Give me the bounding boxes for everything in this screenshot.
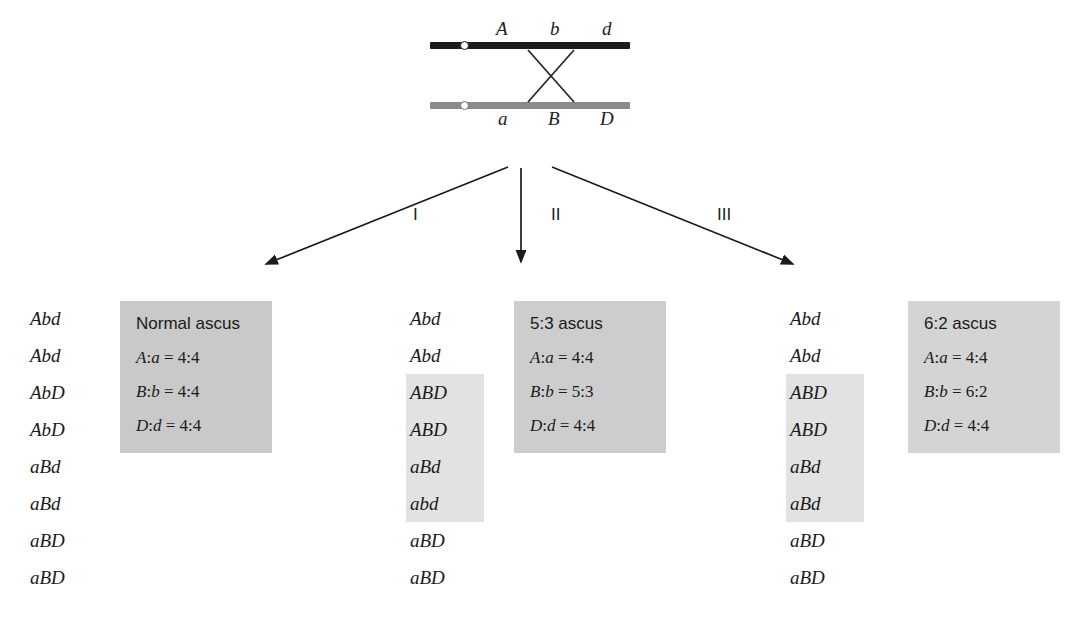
ratio-gene-lower: a	[939, 348, 948, 367]
genotype-row: aBd	[406, 448, 484, 485]
ratio-gene-lower: b	[151, 382, 160, 401]
genotype-row: aBD	[406, 559, 484, 596]
ratio-gene-upper: B	[924, 382, 934, 401]
ratio-gene-upper: D	[136, 416, 148, 435]
chromosome-crossover-diagram: A b d a B D	[430, 18, 640, 133]
genotype-column-1: AbdAbdAbDAbDaBdaBdaBDaBD	[26, 300, 104, 596]
ascus-ratio-line: D:d = 4:4	[530, 416, 666, 436]
ascus-summary-box-2: 5:3 ascusA:a = 4:4B:b = 5:3D:d = 4:4	[514, 301, 666, 453]
ratio-gene-upper: B	[136, 382, 146, 401]
ratio-gene-lower: d	[547, 416, 556, 435]
ascus-ratio-line: D:d = 4:4	[136, 416, 272, 436]
genotype-row: ABD	[406, 374, 484, 411]
ratio-value: 4:4	[180, 416, 202, 435]
genotype-row: Abd	[786, 337, 864, 374]
ratio-gene-upper: B	[530, 382, 540, 401]
arrow-label-ii: II	[551, 205, 560, 225]
bottom-centromere-icon	[460, 101, 469, 110]
ascus-title: 6:2 ascus	[924, 314, 1060, 334]
allele-label-D: D	[600, 108, 614, 130]
genotype-row: Abd	[406, 337, 484, 374]
arrow-iii	[552, 167, 793, 264]
allele-label-d: d	[602, 18, 612, 40]
ascus-ratio-line: D:d = 4:4	[924, 416, 1060, 436]
arrow-label-i: I	[413, 205, 418, 225]
ascus-summary-box-3: 6:2 ascusA:a = 4:4B:b = 6:2D:d = 4:4	[908, 301, 1060, 453]
genotype-row: AbD	[26, 411, 104, 448]
genotype-row: abd	[406, 485, 484, 522]
genotype-row: Abd	[26, 337, 104, 374]
allele-label-A: A	[496, 18, 508, 40]
ratio-value: 4:4	[574, 416, 596, 435]
genotype-row: ABD	[406, 411, 484, 448]
ascus-ratio-line: A:a = 4:4	[530, 348, 666, 368]
allele-label-b: b	[550, 18, 560, 40]
ratio-value: 4:4	[966, 348, 988, 367]
crossover-x-icon	[522, 48, 582, 104]
ratio-gene-lower: d	[941, 416, 950, 435]
ratio-value: 6:2	[966, 382, 988, 401]
genotype-row: aBd	[786, 448, 864, 485]
ratio-gene-upper: D	[530, 416, 542, 435]
genotype-row: aBD	[26, 522, 104, 559]
genotype-row: aBD	[26, 559, 104, 596]
genotype-row: aBd	[26, 485, 104, 522]
ratio-gene-upper: A	[136, 348, 146, 367]
ratio-gene-lower: a	[545, 348, 554, 367]
genotype-column-3: AbdAbdABDABDaBdaBdaBDaBD	[786, 300, 864, 596]
ratio-value: 4:4	[968, 416, 990, 435]
ascus-title: 5:3 ascus	[530, 314, 666, 334]
ascus-ratio-line: B:b = 5:3	[530, 382, 666, 402]
genotype-row: Abd	[406, 300, 484, 337]
arrow-i	[266, 167, 508, 264]
genotype-row: aBD	[406, 522, 484, 559]
ascus-ratio-line: A:a = 4:4	[924, 348, 1060, 368]
ratio-gene-upper: A	[530, 348, 540, 367]
genotype-row: aBd	[786, 485, 864, 522]
ratio-gene-lower: d	[153, 416, 162, 435]
ratio-gene-lower: b	[939, 382, 948, 401]
genotype-row: Abd	[26, 300, 104, 337]
allele-label-B: B	[548, 108, 560, 130]
ratio-gene-upper: D	[924, 416, 936, 435]
genotype-row: aBD	[786, 559, 864, 596]
genotype-row: aBd	[26, 448, 104, 485]
genotype-row: aBD	[786, 522, 864, 559]
genotype-row: Abd	[786, 300, 864, 337]
ascus-ratio-line: A:a = 4:4	[136, 348, 272, 368]
genotype-row: AbD	[26, 374, 104, 411]
ascus-ratio-line: B:b = 4:4	[136, 382, 272, 402]
allele-label-a: a	[498, 108, 508, 130]
ratio-value: 4:4	[572, 348, 594, 367]
ascus-ratio-line: B:b = 6:2	[924, 382, 1060, 402]
ratio-value: 4:4	[178, 348, 200, 367]
genotype-column-2: AbdAbdABDABDaBdabdaBDaBD	[406, 300, 484, 596]
genotype-row: ABD	[786, 411, 864, 448]
top-centromere-icon	[460, 41, 469, 50]
ascus-title: Normal ascus	[136, 314, 272, 334]
ratio-gene-lower: b	[545, 382, 554, 401]
ratio-gene-upper: A	[924, 348, 934, 367]
ascus-summary-box-1: Normal ascusA:a = 4:4B:b = 4:4D:d = 4:4	[120, 301, 272, 453]
ratio-value: 5:3	[572, 382, 594, 401]
arrow-label-iii: III	[717, 205, 731, 225]
genotype-row: ABD	[786, 374, 864, 411]
ratio-value: 4:4	[178, 382, 200, 401]
ratio-gene-lower: a	[151, 348, 160, 367]
